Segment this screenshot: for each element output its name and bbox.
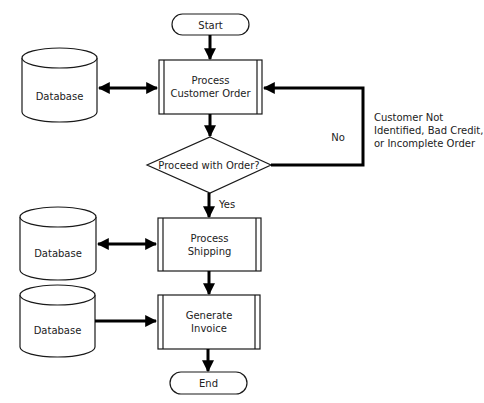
edge-label-no: No — [331, 132, 345, 143]
decision-label: Proceed with Order? — [158, 160, 259, 171]
annotation-line3: or Incomplete Order — [374, 138, 476, 149]
rejection-annotation: Customer Not Identified, Bad Credit, or … — [374, 112, 483, 149]
edge-decision-no-loopback — [264, 88, 363, 165]
database-1-label: Database — [36, 91, 84, 102]
annotation-line1: Customer Not — [374, 112, 443, 123]
annotation-line2: Identified, Bad Credit, — [374, 125, 483, 136]
database-3-label: Database — [34, 325, 82, 336]
generate-invoice-label-line2: Invoice — [191, 323, 227, 334]
process-shipping-label-line1: Process — [191, 233, 229, 244]
database-1-node: Database — [22, 48, 97, 122]
process-order-label-line2: Customer Order — [170, 88, 251, 99]
process-customer-order-node: Process Customer Order — [159, 60, 262, 114]
start-node: Start — [172, 14, 249, 35]
edge-label-yes: Yes — [218, 199, 235, 210]
generate-invoice-node: Generate Invoice — [158, 295, 260, 349]
database-3-node: Database — [20, 285, 95, 357]
database-2-label: Database — [34, 248, 82, 259]
database-2-node: Database — [20, 207, 96, 280]
decision-node: Proceed with Order? — [147, 137, 271, 193]
start-label: Start — [198, 20, 223, 31]
flowchart-diagram: Start Process Customer Order Database Pr… — [0, 0, 484, 403]
end-label: End — [199, 378, 218, 389]
process-shipping-node: Process Shipping — [158, 218, 261, 271]
process-shipping-label-line2: Shipping — [188, 246, 232, 257]
generate-invoice-label-line1: Generate — [186, 310, 233, 321]
process-order-label-line1: Process — [192, 75, 230, 86]
end-node: End — [170, 372, 247, 394]
